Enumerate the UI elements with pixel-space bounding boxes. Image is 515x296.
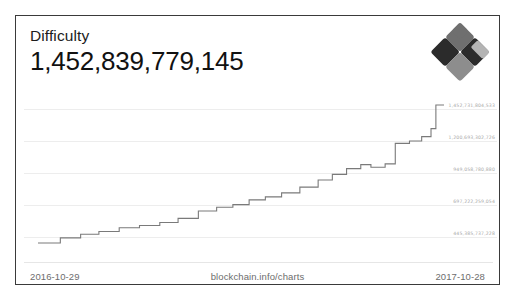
logo-diamond-svg [431, 23, 489, 81]
chart-source-label: blockchain.info/charts [211, 271, 305, 282]
x-axis-end-date: 2017-10-28 [435, 271, 485, 282]
difficulty-line-series [16, 88, 499, 256]
chart-header: Difficulty 1,452,839,779,145 [30, 26, 485, 86]
metric-label: Difficulty [30, 26, 485, 45]
clipped-text-line: · · · · · · · · · · · · · · · · · · · · … [8, 0, 508, 3]
x-axis-start-date: 2016-10-29 [30, 271, 80, 282]
blockchain-info-logo-icon [431, 23, 489, 81]
metric-value: 1,452,839,779,145 [30, 46, 485, 77]
chart-plot-area: 1,452,731,804,533 1,200,693,302,726 949,… [16, 88, 499, 256]
clipped-browser-text-strip: · · · · · · · · · · · · · · · · · · · · … [0, 0, 515, 13]
footer-separator [24, 262, 493, 263]
difficulty-chart-card: Difficulty 1,452,839,779,145 [15, 15, 500, 285]
chart-footer: 2016-10-29 blockchain.info/charts 2017-1… [30, 268, 485, 284]
chart-card-inner: Difficulty 1,452,839,779,145 [16, 16, 499, 284]
